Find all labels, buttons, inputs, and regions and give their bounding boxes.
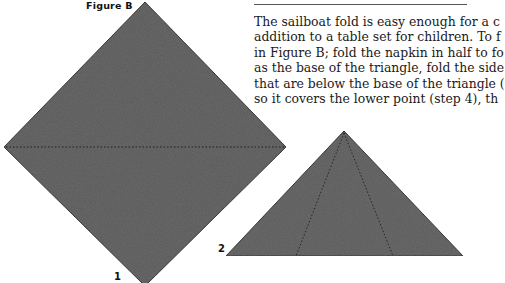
step-number-2: 2	[218, 243, 225, 254]
step-number-1: 1	[114, 271, 121, 282]
